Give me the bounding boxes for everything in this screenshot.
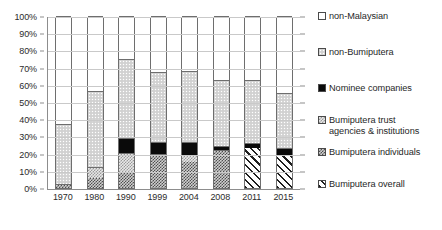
- right-axis-tick: [300, 68, 305, 69]
- legend-item[interactable]: non-Malaysian: [318, 11, 388, 22]
- y-axis-label: 90%: [19, 29, 37, 39]
- bar-segment[interactable]: [56, 185, 71, 188]
- right-axis-tick: [300, 103, 305, 104]
- bar-segment[interactable]: [56, 16, 71, 124]
- y-axis-label: 40%: [19, 115, 37, 125]
- bar-segment[interactable]: [151, 16, 166, 72]
- y-axis-label: 80%: [19, 46, 37, 56]
- bar-segment[interactable]: [56, 184, 71, 186]
- gridline: [48, 86, 300, 87]
- y-axis-tick: [40, 51, 44, 52]
- bar-segment[interactable]: [151, 72, 166, 142]
- x-axis-label: 2015: [273, 192, 293, 202]
- bar-segment[interactable]: [245, 143, 260, 147]
- gridline: [48, 120, 300, 121]
- legend-swatch-icon: [318, 12, 326, 20]
- bar-segment[interactable]: [214, 146, 229, 150]
- bar-segment[interactable]: [119, 59, 134, 138]
- bar-segment[interactable]: [119, 138, 134, 153]
- x-axis: 19701980199019992004200820112015: [47, 192, 299, 210]
- right-axis-tick: [300, 120, 305, 121]
- y-axis-tick: [40, 171, 44, 172]
- gridline: [48, 69, 300, 70]
- legend-label: non-Bumiputera: [329, 47, 394, 58]
- legend-label: Bumiputera individuals: [329, 147, 420, 158]
- legend-item[interactable]: Bumiputera overall: [318, 179, 405, 190]
- bar-segment[interactable]: [214, 80, 229, 146]
- legend-label: non-Malaysian: [329, 11, 388, 22]
- x-axis-label: 1999: [147, 192, 167, 202]
- y-axis-label: 20%: [19, 150, 37, 160]
- bar-segment[interactable]: [119, 16, 134, 59]
- legend-label: Bumiputera trust agencies & institutions: [329, 115, 419, 137]
- y-axis-label: 30%: [19, 132, 37, 142]
- legend-item[interactable]: Bumiputera individuals: [318, 147, 420, 158]
- x-axis-label: 1980: [84, 192, 104, 202]
- right-axis-tick: [300, 137, 305, 138]
- gridline: [48, 155, 300, 156]
- x-axis-label: 1990: [116, 192, 136, 202]
- legend-item[interactable]: non-Bumiputera: [318, 47, 394, 58]
- y-axis-tick: [40, 189, 44, 190]
- bar-segment[interactable]: [119, 173, 134, 188]
- bar-segment[interactable]: [277, 16, 292, 93]
- bar-segment[interactable]: [151, 142, 166, 155]
- y-axis-tick: [40, 17, 44, 18]
- y-axis-label: 50%: [19, 98, 37, 108]
- legend-label: Nominee companies: [329, 83, 412, 94]
- gridline: [48, 172, 300, 173]
- plot-area: [47, 17, 300, 190]
- legend-swatch-icon: [318, 116, 326, 124]
- y-axis-label: 60%: [19, 81, 37, 91]
- legend-swatch-icon: [318, 148, 326, 156]
- bar-segment[interactable]: [214, 150, 229, 151]
- x-axis-label: 2011: [242, 192, 261, 202]
- bar-segment[interactable]: [88, 178, 103, 188]
- right-axis-tick: [300, 189, 305, 190]
- gridline: [48, 51, 300, 52]
- right-axis-tick: [300, 34, 305, 35]
- bar-segment[interactable]: [245, 16, 260, 80]
- legend-swatch-icon: [318, 48, 326, 56]
- legend-swatch-icon: [318, 180, 326, 188]
- y-axis-label: 70%: [19, 64, 37, 74]
- x-axis-label: 1970: [53, 192, 73, 202]
- legend-item[interactable]: Bumiputera trust agencies & institutions: [318, 115, 419, 137]
- x-axis-label: 2008: [210, 192, 230, 202]
- y-axis: 0%10%20%30%40%50%60%70%80%90%100%: [0, 17, 44, 189]
- y-axis-label: 10%: [19, 167, 37, 177]
- y-axis-tick: [40, 68, 44, 69]
- bar-segment[interactable]: [182, 16, 197, 71]
- right-axis-tick: [300, 154, 305, 155]
- y-axis-tick: [40, 34, 44, 35]
- right-axis-tick: [300, 171, 305, 172]
- bar-segment[interactable]: [182, 71, 197, 142]
- stacked-bar-chart: 0%10%20%30%40%50%60%70%80%90%100% 197019…: [0, 0, 442, 230]
- right-axis-tick: [300, 17, 305, 18]
- y-axis-tick: [40, 103, 44, 104]
- gridline: [48, 137, 300, 138]
- right-axis-tick: [300, 51, 305, 52]
- bar-segment[interactable]: [214, 16, 229, 80]
- bar-segment[interactable]: [119, 153, 134, 174]
- right-axis-tick: [300, 85, 305, 86]
- gridline: [48, 34, 300, 35]
- y-axis-label: 100%: [14, 12, 37, 22]
- legend-label: Bumiputera overall: [329, 179, 405, 190]
- gridline: [48, 17, 300, 18]
- bar-segment[interactable]: [245, 80, 260, 144]
- legend-item[interactable]: Nominee companies: [318, 83, 412, 94]
- y-axis-tick: [40, 120, 44, 121]
- y-axis-tick: [40, 137, 44, 138]
- bar-segment[interactable]: [214, 151, 229, 188]
- legend-swatch-icon: [318, 84, 326, 92]
- bar-segment[interactable]: [182, 162, 197, 188]
- y-axis-tick: [40, 85, 44, 86]
- y-axis-tick: [40, 154, 44, 155]
- bar-segment[interactable]: [88, 16, 103, 91]
- bar-segment[interactable]: [182, 142, 197, 156]
- bar-segment[interactable]: [182, 155, 197, 162]
- x-axis-label: 2004: [179, 192, 199, 202]
- y-axis-label: 0%: [24, 184, 37, 194]
- gridline: [48, 103, 300, 104]
